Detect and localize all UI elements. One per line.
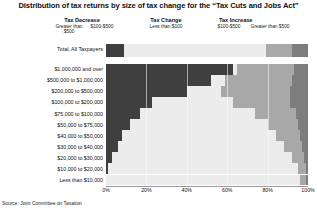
bar-segment-less-than-100 [187,86,221,97]
bar-segment-increase-greater-500 [294,64,308,75]
bar-segment-less-than-100 [118,141,284,152]
plot-area [106,64,308,186]
y-axis-label: $75,000 to $100,000 [0,111,103,117]
y-axis-label: $30,000 to $40,000 [0,144,103,150]
bar-row [106,64,308,75]
x-axis-tick: 100% [301,187,314,193]
gridline [146,64,147,186]
y-axis-label: $40,000 to $50,000 [0,133,103,139]
bar-segment-less-than-100 [124,44,265,57]
bar-segment-increase-100-500 [298,163,306,174]
legend-group-tax-increase-title: Tax Increase [215,17,295,23]
bar-segment-increase-greater-500 [302,141,308,152]
bar-segment-increase-greater-500 [306,175,308,186]
bar-segment-decrease-greater-500 [106,108,140,119]
x-axis-tick: 0% [102,187,110,193]
bar-row [106,152,308,163]
legend-sub-decrease-100-500: $100-$500 [88,24,116,29]
y-axis-label: $50,000 to $75,000 [0,122,103,128]
y-axis-label: $10,000 to $20,000 [0,166,103,172]
bar-segment-decrease-greater-500 [106,64,233,75]
legend-group-tax-increase: Tax Increase [215,17,295,23]
bar-row [106,141,308,152]
bar-segment-increase-100-500 [276,130,300,141]
legend-group-tax-decrease-title: Tax Decrease [48,17,116,23]
legend-sub-less-than-100: Less than $100 [136,24,196,29]
bar-segment-less-than-100 [130,119,267,130]
bar-segment-less-than-100 [106,175,300,186]
gridline [187,64,188,186]
bar-segment-increase-100-500 [221,86,290,97]
bar-segment-less-than-100 [122,130,276,141]
bar-segment-decrease-greater-500 [106,130,122,141]
bar-segment-less-than-100 [112,152,292,163]
x-axis-tick: 60% [222,187,232,193]
bar-segment-decrease-greater-500 [106,141,118,152]
y-axis-label: Less than $10,000 [0,177,103,183]
bar-row [106,97,308,108]
bar-segment-increase-100-500 [233,97,290,108]
bar-segment-increase-100-500 [268,119,298,130]
bar-row [106,130,308,141]
bar-row [106,108,308,119]
bar-row [106,86,308,97]
chart-container: Distribution of tax returns by size of t… [0,0,317,214]
x-axis-tick: 20% [141,187,151,193]
bar-segment-decrease-greater-500 [106,119,130,130]
total-row-label: Total, All Taxpayers [0,46,103,52]
bar-segment-increase-greater-500 [292,75,308,86]
bar-segment-increase-greater-500 [300,130,308,141]
bar-segment-decrease-greater-500 [106,44,124,57]
bar-row [106,163,308,174]
y-axis-label: $500,000 to $1,000,000 [0,77,103,83]
x-axis-tick: 40% [182,187,192,193]
chart-title: Distribution of tax returns by size of t… [0,1,317,10]
bar-segment-decrease-greater-500 [106,75,211,86]
bar-segment-increase-100-500 [225,75,292,86]
source-note: Source: Joint Committee on Taxation [2,201,82,206]
gridline [268,64,269,186]
gridline [227,64,228,186]
bar-segment-less-than-100 [108,163,298,174]
bar-segment-increase-100-500 [266,44,292,57]
legend-group-tax-decrease: Tax Decrease [48,17,116,23]
bar-segment-increase-greater-500 [304,152,308,163]
bar-segment-increase-greater-500 [290,86,308,97]
y-axis-label: $100,000 to $200,000 [0,99,103,105]
bar-segment-increase-greater-500 [292,44,308,57]
bar-segment-increase-100-500 [237,64,294,75]
legend-group-tax-change: Tax Change [136,17,196,23]
total-row-bar [106,44,308,57]
legend-sub-increase-100-500: $100-$500 [213,24,245,29]
bar-segment-increase-greater-500 [298,119,308,130]
legend-sub-increase-greater-500: Greater than $500 [250,24,290,29]
bar-segment-increase-100-500 [292,152,304,163]
bar-row [106,175,308,186]
bar-segment-less-than-100 [152,97,233,108]
bar-segment-less-than-100 [140,108,255,119]
bar-segment-less-than-100 [211,75,225,86]
y-axis-label: $20,000 to $30,000 [0,155,103,161]
bar-segment-increase-100-500 [284,141,302,152]
legend-group-tax-change-title: Tax Change [136,17,196,23]
legend-sub-decrease-greater-500: Greater than $500 [52,24,86,34]
x-axis-tick: 80% [262,187,272,193]
bar-row [106,75,308,86]
y-axis-label: $1,000,000 and over [0,66,103,72]
bar-row [106,119,308,130]
x-axis: 0%20%40%60%80%100% [106,187,308,197]
bar-segment-increase-greater-500 [296,108,308,119]
y-axis-label: $200,000 to $500,000 [0,88,103,94]
bar-segment-increase-100-500 [255,108,295,119]
bar-segment-increase-greater-500 [290,97,308,108]
bar-segment-increase-greater-500 [306,163,308,174]
